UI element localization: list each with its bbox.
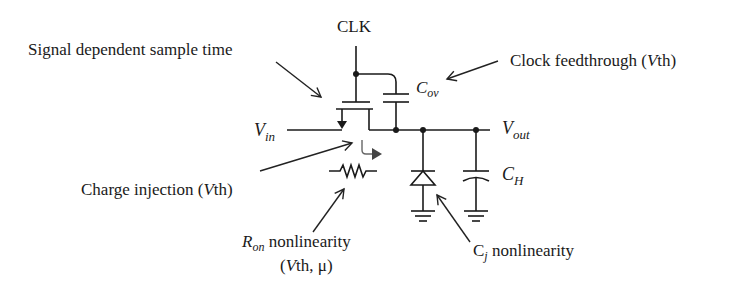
sample-time-annotation: Signal dependent sample time xyxy=(28,40,232,59)
sample-time-arrow-icon xyxy=(276,62,321,97)
cov-label: Cov xyxy=(416,78,439,100)
clock-feedthrough-arrow-icon xyxy=(447,61,498,79)
ron-resistor xyxy=(329,165,377,177)
junction-diode xyxy=(411,130,435,221)
clk-label: CLK xyxy=(337,17,372,36)
hold-capacitor xyxy=(463,130,489,221)
nmos-switch xyxy=(336,102,373,130)
cov-capacitor xyxy=(383,94,409,130)
charge-injection-arrow-icon xyxy=(362,140,382,160)
vout-label: Vout xyxy=(502,118,530,142)
ron-annotation-line2: (Vth, μ) xyxy=(280,256,333,275)
cj-arrow-icon xyxy=(437,195,470,242)
clock-feedthrough-annotation: Clock feedthrough (Vth) xyxy=(510,51,676,70)
vin-label: Vin xyxy=(254,120,275,144)
charge-injection-arrow-icon xyxy=(260,143,352,171)
ground-icon xyxy=(411,211,435,221)
ch-label: CH xyxy=(502,164,524,188)
ron-annotation: Ron nonlinearity xyxy=(241,232,351,254)
vout-wire xyxy=(369,127,490,133)
cj-annotation: Cj nonlinearity xyxy=(473,241,575,263)
ron-arrow-icon xyxy=(313,189,344,232)
ground-icon xyxy=(464,211,488,221)
charge-injection-annotation: Charge injection (Vth) xyxy=(81,180,233,199)
circuit-diagram: CLK Cov Vin Vout xyxy=(0,0,744,299)
source-arrow-icon xyxy=(337,121,347,129)
